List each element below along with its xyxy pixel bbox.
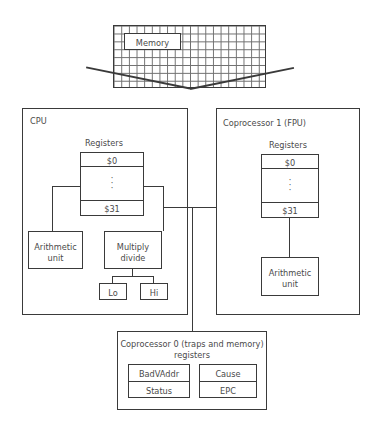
coprocessor0-right-register-group: Cause EPC bbox=[199, 364, 257, 398]
hi-drop-line bbox=[153, 276, 154, 283]
coprocessor1-register-last-label: $31 bbox=[282, 206, 298, 216]
coprocessor1-label: Coprocessor 1 (FPU) bbox=[223, 118, 306, 129]
diagram-canvas: Memory CPU Registers $0 ··· $31 Arithmet… bbox=[0, 0, 384, 437]
coprocessor1-register-first-label: $0 bbox=[285, 158, 295, 168]
coprocessor1-register-last-row: $31 bbox=[262, 202, 318, 216]
cpu-arithmetic-feed-line bbox=[52, 186, 53, 231]
coprocessor-bus-vertical-line bbox=[192, 207, 193, 331]
coprocessor1-arithmetic-unit-label-line2: unit bbox=[262, 279, 318, 290]
coprocessor1-registers-box: $0 ··· $31 bbox=[261, 154, 319, 218]
coprocessor-bus-horizontal-line bbox=[163, 207, 217, 208]
cpu-multiply-divide-label-line2: divide bbox=[105, 253, 161, 264]
lo-register-box: Lo bbox=[99, 283, 127, 300]
cause-register-row: Cause bbox=[200, 365, 256, 382]
coprocessor0-title-line2: registers bbox=[117, 350, 267, 361]
coprocessor1-registers-to-arithmetic-line bbox=[289, 218, 290, 257]
lo-register-label: Lo bbox=[100, 288, 126, 299]
cpu-multiply-feed-line bbox=[163, 186, 164, 231]
status-register-label: Status bbox=[146, 386, 172, 396]
hi-register-label: Hi bbox=[141, 288, 167, 299]
lo-drop-line bbox=[112, 276, 113, 283]
coprocessor0-left-register-group: BadVAddr Status bbox=[128, 364, 190, 398]
lo-hi-crossbar-line bbox=[112, 276, 154, 277]
cpu-registers-box: $0 ··· $31 bbox=[80, 152, 144, 216]
status-register-row: Status bbox=[129, 382, 189, 399]
cpu-multiply-divide-box: Multiply divide bbox=[104, 231, 162, 269]
cpu-registers-label: Registers bbox=[62, 138, 146, 149]
coprocessor1-arithmetic-unit-label-line1: Arithmetic bbox=[262, 268, 318, 279]
coprocessor1-register-ellipsis: ··· bbox=[262, 178, 318, 194]
cpu-arithmetic-unit-box: Arithmetic unit bbox=[28, 231, 83, 269]
coprocessor1-registers-label: Registers bbox=[248, 140, 328, 151]
memory-label: Memory bbox=[125, 38, 180, 49]
cpu-register-right-branch bbox=[143, 186, 164, 187]
cpu-register-ellipsis: ··· bbox=[81, 176, 143, 192]
coprocessor0-title-line1: Coprocessor 0 (traps and memory) bbox=[117, 339, 267, 350]
cpu-label: CPU bbox=[30, 116, 47, 127]
cpu-multiply-divide-label-line1: Multiply bbox=[105, 242, 161, 253]
cpu-register-last-row: $31 bbox=[81, 200, 143, 214]
epc-register-row: EPC bbox=[200, 382, 256, 399]
cpu-register-left-branch bbox=[52, 186, 81, 187]
cpu-register-first-label: $0 bbox=[107, 156, 117, 166]
cpu-arithmetic-unit-label-line1: Arithmetic bbox=[29, 242, 82, 253]
cpu-register-last-label: $31 bbox=[104, 204, 120, 214]
coprocessor1-register-first-row: $0 bbox=[262, 155, 318, 169]
badvaddr-register-label: BadVAddr bbox=[139, 369, 179, 379]
hi-register-box: Hi bbox=[140, 283, 168, 300]
badvaddr-register-row: BadVAddr bbox=[129, 365, 189, 382]
cpu-arithmetic-unit-label-line2: unit bbox=[29, 253, 82, 264]
coprocessor1-arithmetic-unit-box: Arithmetic unit bbox=[261, 257, 319, 296]
epc-register-label: EPC bbox=[220, 386, 236, 396]
memory-label-box: Memory bbox=[124, 33, 181, 50]
cpu-register-first-row: $0 bbox=[81, 153, 143, 167]
cause-register-label: Cause bbox=[215, 369, 240, 379]
